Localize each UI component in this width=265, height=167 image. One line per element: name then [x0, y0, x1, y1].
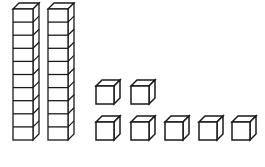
box-front-face: [199, 122, 217, 140]
unit-cube: [131, 80, 155, 104]
unit-cube: [131, 116, 155, 140]
base-ten-blocks-figure: [0, 0, 265, 167]
blocks-canvas: [0, 0, 265, 167]
unit-cube: [96, 80, 120, 104]
box-front-face: [232, 122, 250, 140]
box-front-face: [96, 122, 114, 140]
box-front-face: [131, 122, 149, 140]
unit-cubes-group: [96, 80, 256, 140]
cube-row-lower: [96, 116, 256, 140]
tens-rod: [48, 3, 74, 140]
unit-cube: [199, 116, 223, 140]
unit-cube: [96, 116, 120, 140]
unit-cube: [165, 116, 189, 140]
unit-cube: [232, 116, 256, 140]
box-front-face: [96, 86, 114, 104]
tens-rods-group: [13, 3, 74, 140]
box-front-face: [131, 86, 149, 104]
cube-row-upper: [96, 80, 155, 104]
box-front-face: [165, 122, 183, 140]
tens-rod: [13, 3, 39, 140]
